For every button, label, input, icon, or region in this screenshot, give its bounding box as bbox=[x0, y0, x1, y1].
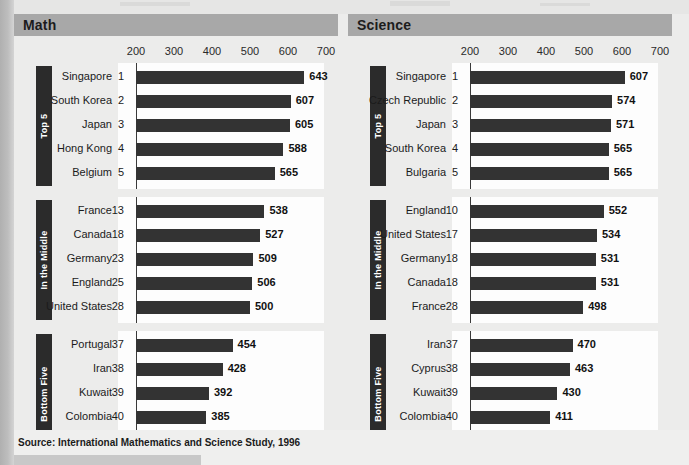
bar bbox=[136, 119, 290, 132]
bar bbox=[136, 229, 260, 242]
bar bbox=[136, 411, 206, 424]
bar bbox=[470, 95, 612, 108]
bar-value-label: 498 bbox=[588, 300, 606, 312]
country-label: South Korea bbox=[51, 94, 112, 106]
rank-label: 2 bbox=[110, 94, 124, 106]
rank-label: 3 bbox=[444, 118, 458, 130]
x-tick-label: 200 bbox=[461, 45, 479, 57]
bar bbox=[470, 205, 604, 218]
bar-row: Kuwait39430 bbox=[348, 382, 672, 406]
bar bbox=[136, 363, 223, 376]
country-label: Hong Kong bbox=[57, 142, 112, 154]
bar-row: Portugal37454 bbox=[14, 334, 338, 358]
rank-label: 38 bbox=[110, 362, 124, 374]
bar bbox=[136, 71, 304, 84]
bar-value-label: 428 bbox=[228, 362, 246, 374]
bar-value-label: 643 bbox=[309, 70, 327, 82]
bar-value-label: 538 bbox=[269, 204, 287, 216]
bar-value-label: 454 bbox=[238, 338, 256, 350]
country-label: Singapore bbox=[396, 70, 446, 82]
bar-value-label: 527 bbox=[265, 228, 283, 240]
panel-title-science: Science bbox=[357, 17, 411, 33]
bar-value-label: 571 bbox=[616, 118, 634, 130]
rank-label: 4 bbox=[444, 142, 458, 154]
scan-noise bbox=[390, 1, 450, 6]
x-tick-label: 500 bbox=[575, 45, 593, 57]
bar-value-label: 605 bbox=[295, 118, 313, 130]
rank-label: 5 bbox=[444, 166, 458, 178]
x-tick-label: 600 bbox=[279, 45, 297, 57]
country-label: France bbox=[412, 300, 446, 312]
rank-label: 39 bbox=[110, 386, 124, 398]
bar-row: France13538 bbox=[14, 200, 338, 224]
country-label: Canada bbox=[73, 228, 112, 240]
bar-row: Germany18531 bbox=[348, 248, 672, 272]
bar bbox=[136, 253, 253, 266]
bar bbox=[136, 301, 250, 314]
country-label: Japan bbox=[82, 118, 112, 130]
scan-noise bbox=[120, 2, 190, 6]
panel-header-math: Math bbox=[14, 14, 338, 36]
bar-row: United States17534 bbox=[348, 224, 672, 248]
country-label: Portugal bbox=[71, 338, 112, 350]
bar-row: South Korea2607 bbox=[14, 90, 338, 114]
country-label: England bbox=[406, 204, 446, 216]
bar-row: Iran38428 bbox=[14, 358, 338, 382]
country-label: Kuwait bbox=[413, 386, 446, 398]
bar-value-label: 588 bbox=[288, 142, 306, 154]
bar-row: Colombia40385 bbox=[14, 406, 338, 430]
bar-value-label: 565 bbox=[280, 166, 298, 178]
country-label: Belgium bbox=[72, 166, 112, 178]
bar-group-middle: In the MiddleEngland10552United States17… bbox=[348, 197, 672, 323]
bar bbox=[470, 119, 611, 132]
country-label: South Korea bbox=[385, 142, 446, 154]
bar-row: Japan3571 bbox=[348, 114, 672, 138]
rank-label: 1 bbox=[110, 70, 124, 82]
country-label: Japan bbox=[416, 118, 446, 130]
bar-row: Canada18527 bbox=[14, 224, 338, 248]
bar-value-label: 392 bbox=[214, 386, 232, 398]
bar-value-label: 607 bbox=[630, 70, 648, 82]
rank-label: 1 bbox=[444, 70, 458, 82]
bar-row: Iran37470 bbox=[348, 334, 672, 358]
country-label: Germany bbox=[67, 252, 112, 264]
bar-value-label: 531 bbox=[601, 252, 619, 264]
bar-value-label: 552 bbox=[609, 204, 627, 216]
rank-label: 37 bbox=[110, 338, 124, 350]
scan-noise bbox=[540, 3, 590, 6]
plot-area-math: 200300400500600700 Top 5Singapore1643Sou… bbox=[14, 36, 338, 426]
bar-value-label: 565 bbox=[614, 142, 632, 154]
bar-row: Germany23509 bbox=[14, 248, 338, 272]
bar-row: Kuwait39392 bbox=[14, 382, 338, 406]
bar bbox=[136, 205, 264, 218]
rank-label: 39 bbox=[444, 386, 458, 398]
rank-label: 25 bbox=[110, 276, 124, 288]
rank-label: 37 bbox=[444, 338, 458, 350]
bar bbox=[470, 71, 625, 84]
rank-label: 38 bbox=[444, 362, 458, 374]
country-label: Kuwait bbox=[79, 386, 112, 398]
x-axis-science: 200300400500600700 bbox=[348, 45, 672, 61]
rank-label: 5 bbox=[110, 166, 124, 178]
rank-label: 18 bbox=[110, 228, 124, 240]
rank-label: 28 bbox=[110, 300, 124, 312]
bar-value-label: 411 bbox=[555, 410, 573, 422]
bar-value-label: 534 bbox=[602, 228, 620, 240]
bar-row: France28498 bbox=[348, 296, 672, 320]
bar bbox=[470, 339, 573, 352]
x-tick-label: 300 bbox=[165, 45, 183, 57]
scan-smudge bbox=[14, 455, 201, 465]
bar-row: Hong Kong4588 bbox=[14, 138, 338, 162]
page-gutter-shadow bbox=[0, 0, 14, 465]
bar-row: England10552 bbox=[348, 200, 672, 224]
country-label: Canada bbox=[407, 276, 446, 288]
bar-row: United States28500 bbox=[14, 296, 338, 320]
bar bbox=[136, 95, 291, 108]
bar bbox=[136, 143, 283, 156]
bar bbox=[136, 387, 209, 400]
rank-label: 10 bbox=[444, 204, 458, 216]
rank-label: 23 bbox=[110, 252, 124, 264]
x-tick-label: 200 bbox=[127, 45, 145, 57]
x-axis-math: 200300400500600700 bbox=[14, 45, 338, 61]
bar-row: Singapore1643 bbox=[14, 66, 338, 90]
